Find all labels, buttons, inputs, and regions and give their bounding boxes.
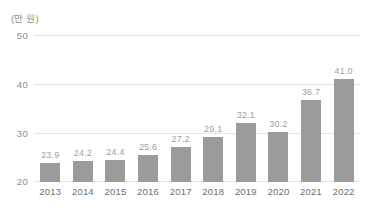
bar-slot-2021: 36.7 xyxy=(295,35,328,182)
bar-slot-2015: 24.4 xyxy=(99,35,132,182)
bar-value-2018: 29.1 xyxy=(204,124,222,134)
x-tick-label-2017: 2017 xyxy=(164,186,197,197)
bar-slot-2022: 41.0 xyxy=(327,35,360,182)
bar-2016[interactable] xyxy=(138,155,158,182)
bar-2018[interactable] xyxy=(203,137,223,182)
bar-slot-2016: 25.6 xyxy=(132,35,165,182)
x-tick-label-2015: 2015 xyxy=(99,186,132,197)
bar-slot-2014: 24.2 xyxy=(67,35,100,182)
bar-2013[interactable] xyxy=(40,163,60,182)
bar-value-2017: 27.2 xyxy=(172,134,190,144)
bar-slot-2020: 30.2 xyxy=(262,35,295,182)
x-tick-label-2014: 2014 xyxy=(67,186,100,197)
x-tick-label-2021: 2021 xyxy=(295,186,328,197)
bar-2019[interactable] xyxy=(236,123,256,182)
x-tick-label-2019: 2019 xyxy=(230,186,263,197)
y-tick-label-20: 20 xyxy=(0,176,28,187)
bar-value-2013: 23.9 xyxy=(41,150,59,160)
bar-value-2014: 24.2 xyxy=(74,148,92,158)
x-tick-label-2018: 2018 xyxy=(197,186,230,197)
bar-2014[interactable] xyxy=(73,161,93,182)
bar-value-2021: 36.7 xyxy=(302,87,320,97)
y-tick-label-50: 50 xyxy=(0,30,28,41)
x-axis: 2013 2014 2015 2016 2017 2018 2019 2020 … xyxy=(34,186,360,197)
bar-2022[interactable] xyxy=(334,79,354,182)
bar-2020[interactable] xyxy=(268,132,288,182)
x-tick-label-2020: 2020 xyxy=(262,186,295,197)
bar-slot-2018: 29.1 xyxy=(197,35,230,182)
y-tick-label-30: 30 xyxy=(0,128,28,139)
y-axis-unit-label: (만 원) xyxy=(11,11,39,25)
bar-slot-2013: 23.9 xyxy=(34,35,67,182)
bar-slot-2017: 27.2 xyxy=(164,35,197,182)
bar-value-2020: 30.2 xyxy=(269,119,287,129)
bar-chart: (만 원) 50 40 30 20 23.9 24.2 24.4 25.6 27… xyxy=(0,0,371,213)
bar-2021[interactable] xyxy=(301,100,321,182)
x-tick-label-2013: 2013 xyxy=(34,186,67,197)
bar-value-2022: 41.0 xyxy=(334,66,352,76)
bar-slot-2019: 32.1 xyxy=(230,35,263,182)
bar-value-2016: 25.6 xyxy=(139,142,157,152)
bar-value-2015: 24.4 xyxy=(106,147,124,157)
bar-series: 23.9 24.2 24.4 25.6 27.2 29.1 32.1 30.2 xyxy=(34,35,360,182)
bar-2017[interactable] xyxy=(171,147,191,182)
y-tick-label-40: 40 xyxy=(0,79,28,90)
bar-value-2019: 32.1 xyxy=(237,110,255,120)
x-tick-label-2016: 2016 xyxy=(132,186,165,197)
bar-2015[interactable] xyxy=(105,160,125,182)
x-tick-label-2022: 2022 xyxy=(327,186,360,197)
